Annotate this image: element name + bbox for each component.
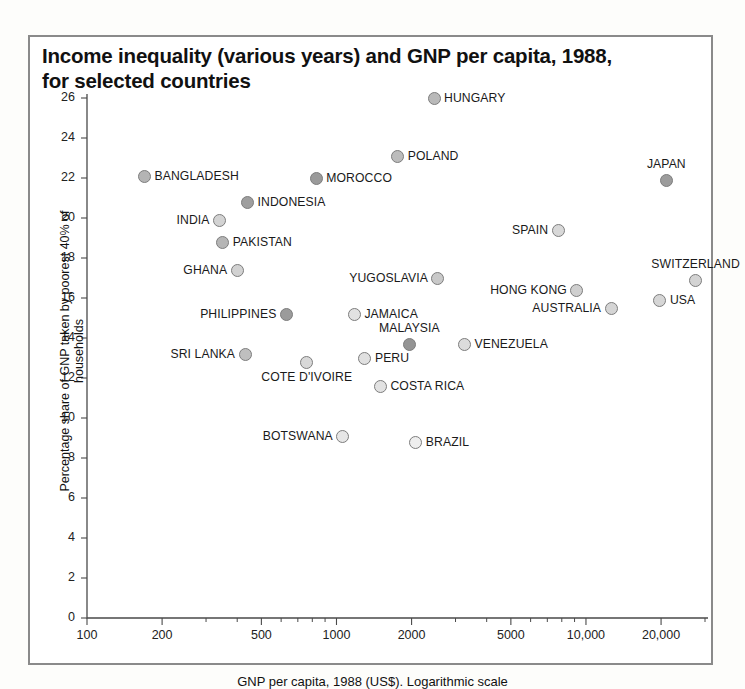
x-tick-label: 500 <box>226 628 296 642</box>
data-point-marker[interactable] <box>231 264 244 277</box>
data-point-label: BRAZIL <box>426 435 469 449</box>
data-point-marker[interactable] <box>374 380 387 393</box>
data-point-marker[interactable] <box>689 274 702 287</box>
data-point-label: GHANA <box>183 263 227 277</box>
data-point-marker[interactable] <box>358 352 371 365</box>
data-point-label: AUSTRALIA <box>532 301 601 315</box>
x-tick-label: 20,000 <box>626 628 696 642</box>
data-point-marker[interactable] <box>653 294 666 307</box>
data-point-marker[interactable] <box>213 214 226 227</box>
data-point-label: PHILIPPINES <box>200 307 276 321</box>
chart-title: Income inequality (various years) and GN… <box>42 43 642 93</box>
x-tick-label: 100 <box>52 628 122 642</box>
y-tick-label: 26 <box>45 90 75 104</box>
data-point-marker[interactable] <box>431 272 444 285</box>
data-point-label: MOROCCO <box>326 171 392 185</box>
x-axis-title: GNP per capita, 1988 (US$). Logarithmic … <box>30 674 715 689</box>
data-point-marker[interactable] <box>336 430 349 443</box>
data-point-label: SPAIN <box>512 223 548 237</box>
data-point-label: JAMAICA <box>364 307 418 321</box>
data-point-label: SWITZERLAND <box>651 257 739 271</box>
data-point-marker[interactable] <box>409 436 422 449</box>
data-point-label: PERU <box>375 351 409 365</box>
data-point-marker[interactable] <box>403 338 416 351</box>
data-point-label: YUGOSLAVIA <box>349 271 428 285</box>
data-point-marker[interactable] <box>570 284 583 297</box>
data-point-label: HONG KONG <box>490 283 567 297</box>
data-point-marker[interactable] <box>241 196 254 209</box>
x-tick-label: 1000 <box>301 628 371 642</box>
y-tick-label: 24 <box>45 130 75 144</box>
data-point-label: BOTSWANA <box>263 429 333 443</box>
data-point-marker[interactable] <box>552 224 565 237</box>
data-point-marker[interactable] <box>216 236 229 249</box>
data-point-label: POLAND <box>408 149 459 163</box>
y-tick-label: 22 <box>45 170 75 184</box>
y-tick-label: 0 <box>45 610 75 624</box>
x-tick-label: 10,000 <box>551 628 621 642</box>
data-point-marker[interactable] <box>348 308 361 321</box>
data-point-label: COTE D'IVOIRE <box>261 370 352 384</box>
data-point-marker[interactable] <box>300 356 313 369</box>
data-point-marker[interactable] <box>660 174 673 187</box>
y-tick-label: 2 <box>45 570 75 584</box>
data-point-marker[interactable] <box>280 308 293 321</box>
data-point-marker[interactable] <box>138 170 151 183</box>
data-point-label: JAPAN <box>647 157 686 171</box>
data-point-label: SRI LANKA <box>170 347 235 361</box>
data-point-marker[interactable] <box>428 92 441 105</box>
data-point-label: VENEZUELA <box>475 337 548 351</box>
data-point-label: INDONESIA <box>258 195 326 209</box>
x-tick-label: 200 <box>127 628 197 642</box>
y-axis-title: Percentage share of GNP taken by poorest… <box>58 201 86 501</box>
data-point-label: USA <box>670 293 695 307</box>
data-point-marker[interactable] <box>310 172 323 185</box>
data-point-label: BANGLADESH <box>154 169 238 183</box>
data-point-label: PAKISTAN <box>233 235 292 249</box>
data-point-marker[interactable] <box>239 348 252 361</box>
data-point-marker[interactable] <box>605 302 618 315</box>
x-tick-label: 2000 <box>377 628 447 642</box>
data-point-marker[interactable] <box>391 150 404 163</box>
data-point-marker[interactable] <box>458 338 471 351</box>
data-point-label: INDIA <box>177 213 210 227</box>
x-tick-label: 5000 <box>476 628 546 642</box>
y-tick-label: 4 <box>45 530 75 544</box>
data-point-label: HUNGARY <box>444 91 505 105</box>
chart-frame: Income inequality (various years) and GN… <box>28 35 713 665</box>
data-point-label: MALAYSIA <box>379 321 440 335</box>
data-point-label: COSTA RICA <box>390 379 464 393</box>
